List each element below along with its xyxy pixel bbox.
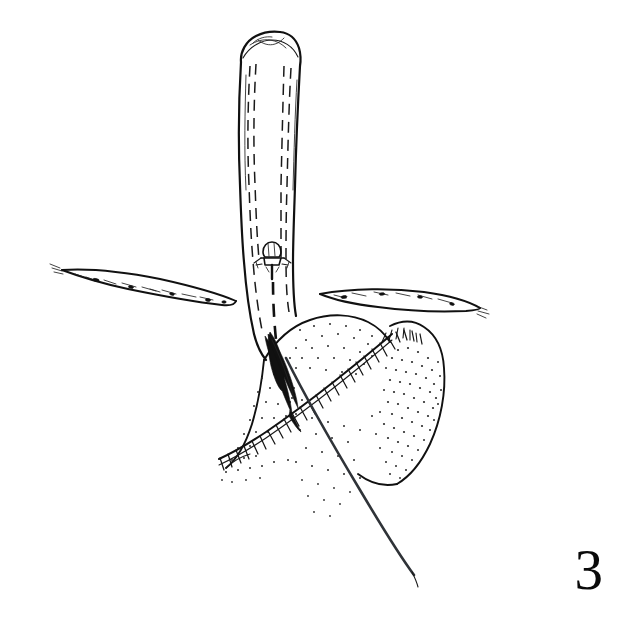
right-tissue-band bbox=[320, 289, 489, 318]
stipple-upper-lobe bbox=[289, 323, 373, 375]
stippled-tissue-mass bbox=[221, 315, 444, 517]
left-tissue-band bbox=[50, 264, 236, 305]
stipple-lower-middle bbox=[291, 397, 373, 517]
tubular-structure bbox=[239, 32, 301, 360]
suture-thread bbox=[286, 358, 414, 575]
illustration-svg bbox=[0, 0, 621, 620]
figure-canvas: 3 bbox=[0, 0, 621, 620]
hatched-suture-line bbox=[219, 330, 422, 470]
stipple-right-lobe bbox=[375, 347, 442, 479]
figure-number-label: 3 bbox=[575, 541, 604, 598]
lumen-center-line bbox=[273, 282, 276, 340]
